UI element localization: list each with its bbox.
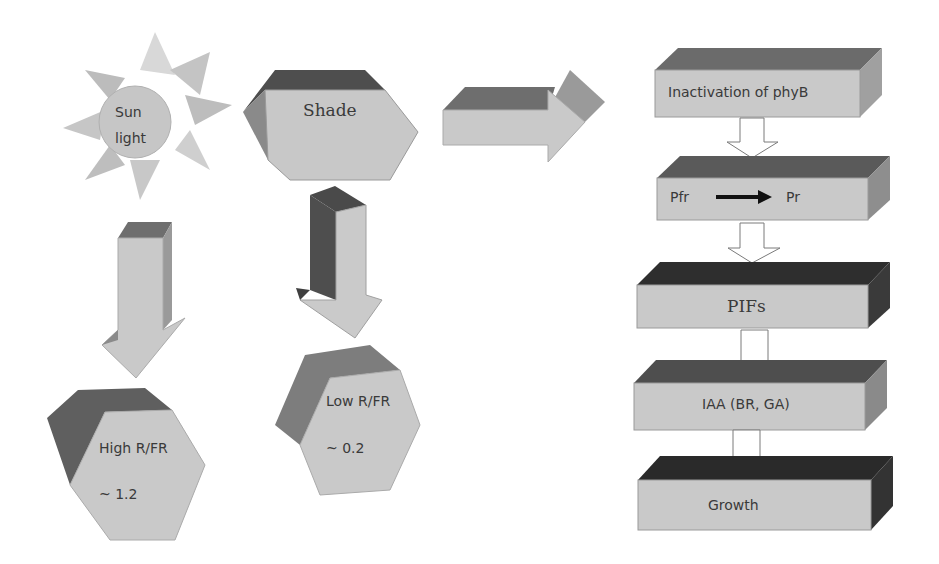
flow-box-iaa xyxy=(634,360,887,430)
flow-step-pifs: PIFs xyxy=(727,296,766,316)
flow-box-pifs xyxy=(637,262,890,328)
down-arrow-shade xyxy=(296,186,382,338)
flow-box-inactivation xyxy=(655,48,882,117)
down-arrow-sun xyxy=(102,222,185,378)
flow-step-pfr: Pfr xyxy=(670,189,689,205)
low-rfr-value: ~ 0.2 xyxy=(326,440,364,456)
flow-step-pr: Pr xyxy=(786,189,800,205)
high-rfr-hexagon xyxy=(47,388,205,540)
flow-box-pfr-pr xyxy=(657,156,890,220)
flow-arrow-2 xyxy=(728,223,780,263)
high-rfr-value: ~ 1.2 xyxy=(99,486,137,502)
sun-label-line2: light xyxy=(115,130,146,146)
flow-box-growth xyxy=(638,456,893,530)
right-arrow xyxy=(443,70,605,162)
shade-label: Shade xyxy=(303,100,357,120)
high-rfr-label: High R/FR xyxy=(99,440,168,456)
low-rfr-hexagon xyxy=(275,345,420,495)
flow-step-inactivation: Inactivation of phyB xyxy=(668,84,808,100)
sun-label-line1: Sun xyxy=(115,104,142,120)
flow-step-iaa: IAA (BR, GA) xyxy=(702,396,790,412)
shade-hexagon xyxy=(243,70,418,180)
sun-icon xyxy=(63,32,232,200)
low-rfr-label: Low R/FR xyxy=(326,393,390,409)
flow-arrow-1 xyxy=(727,118,778,158)
flow-step-growth: Growth xyxy=(708,497,759,513)
